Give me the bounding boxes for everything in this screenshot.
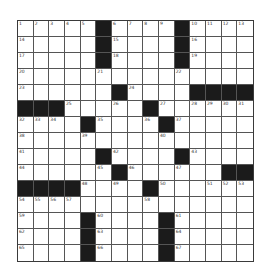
grid-cell[interactable] (222, 197, 238, 213)
grid-cell[interactable]: 23 (18, 85, 34, 101)
grid-cell[interactable] (206, 37, 222, 53)
grid-cell[interactable] (128, 197, 144, 213)
grid-cell[interactable] (237, 117, 253, 133)
grid-cell[interactable]: 11 (206, 21, 222, 37)
grid-cell[interactable]: 66 (96, 245, 112, 261)
grid-cell[interactable] (81, 85, 97, 101)
grid-cell[interactable]: 56 (49, 197, 65, 213)
grid-cell[interactable] (81, 101, 97, 117)
grid-cell[interactable] (190, 69, 206, 85)
grid-cell[interactable] (81, 37, 97, 53)
grid-cell[interactable] (112, 245, 128, 261)
grid-cell[interactable] (128, 133, 144, 149)
grid-cell[interactable] (49, 85, 65, 101)
grid-cell[interactable]: 31 (237, 101, 253, 117)
grid-cell[interactable] (34, 245, 50, 261)
grid-cell[interactable]: 27 (159, 101, 175, 117)
grid-cell[interactable] (112, 213, 128, 229)
grid-cell[interactable] (128, 149, 144, 165)
grid-cell[interactable] (159, 149, 175, 165)
grid-cell[interactable]: 14 (18, 37, 34, 53)
grid-cell[interactable] (49, 133, 65, 149)
grid-cell[interactable]: 67 (175, 245, 191, 261)
grid-cell[interactable] (49, 213, 65, 229)
grid-cell[interactable]: 2 (34, 21, 50, 37)
grid-cell[interactable]: 26 (112, 101, 128, 117)
grid-cell[interactable] (222, 213, 238, 229)
grid-cell[interactable]: 36 (143, 117, 159, 133)
grid-cell[interactable] (65, 133, 81, 149)
grid-cell[interactable] (34, 133, 50, 149)
grid-cell[interactable] (128, 117, 144, 133)
grid-cell[interactable]: 54 (18, 197, 34, 213)
grid-cell[interactable] (159, 165, 175, 181)
grid-cell[interactable] (34, 85, 50, 101)
grid-cell[interactable]: 9 (159, 21, 175, 37)
grid-cell[interactable]: 42 (112, 149, 128, 165)
grid-cell[interactable]: 4 (65, 21, 81, 37)
grid-cell[interactable] (143, 37, 159, 53)
grid-cell[interactable] (190, 117, 206, 133)
grid-cell[interactable] (49, 149, 65, 165)
grid-cell[interactable]: 10 (190, 21, 206, 37)
grid-cell[interactable] (143, 245, 159, 261)
grid-cell[interactable]: 64 (175, 229, 191, 245)
grid-cell[interactable] (190, 245, 206, 261)
grid-cell[interactable]: 59 (18, 213, 34, 229)
grid-cell[interactable] (206, 165, 222, 181)
grid-cell[interactable] (112, 197, 128, 213)
grid-cell[interactable] (65, 117, 81, 133)
grid-cell[interactable] (65, 213, 81, 229)
grid-cell[interactable] (34, 229, 50, 245)
grid-cell[interactable]: 39 (81, 133, 97, 149)
grid-cell[interactable]: 40 (159, 133, 175, 149)
grid-cell[interactable] (128, 69, 144, 85)
grid-cell[interactable] (96, 181, 112, 197)
grid-cell[interactable]: 61 (175, 213, 191, 229)
grid-cell[interactable]: 50 (159, 181, 175, 197)
grid-cell[interactable] (190, 181, 206, 197)
grid-cell[interactable]: 33 (34, 117, 50, 133)
grid-cell[interactable] (128, 213, 144, 229)
grid-cell[interactable] (237, 149, 253, 165)
grid-cell[interactable] (49, 53, 65, 69)
grid-cell[interactable] (206, 133, 222, 149)
grid-cell[interactable] (143, 133, 159, 149)
grid-cell[interactable] (222, 69, 238, 85)
grid-cell[interactable] (112, 69, 128, 85)
grid-cell[interactable]: 47 (175, 165, 191, 181)
grid-cell[interactable] (190, 197, 206, 213)
grid-cell[interactable] (175, 85, 191, 101)
grid-cell[interactable] (206, 149, 222, 165)
grid-cell[interactable]: 20 (18, 69, 34, 85)
grid-cell[interactable]: 24 (128, 85, 144, 101)
grid-cell[interactable]: 57 (65, 197, 81, 213)
grid-cell[interactable] (190, 133, 206, 149)
grid-cell[interactable]: 28 (190, 101, 206, 117)
grid-cell[interactable] (237, 245, 253, 261)
grid-cell[interactable] (206, 245, 222, 261)
grid-cell[interactable] (143, 69, 159, 85)
grid-cell[interactable]: 38 (18, 133, 34, 149)
grid-cell[interactable] (206, 117, 222, 133)
grid-cell[interactable]: 13 (237, 21, 253, 37)
grid-cell[interactable]: 7 (128, 21, 144, 37)
grid-cell[interactable]: 5 (81, 21, 97, 37)
grid-cell[interactable]: 63 (96, 229, 112, 245)
grid-cell[interactable] (65, 69, 81, 85)
grid-cell[interactable] (34, 165, 50, 181)
grid-cell[interactable] (190, 229, 206, 245)
grid-cell[interactable] (237, 197, 253, 213)
grid-cell[interactable] (222, 149, 238, 165)
grid-cell[interactable] (143, 149, 159, 165)
grid-cell[interactable] (206, 53, 222, 69)
grid-cell[interactable] (49, 229, 65, 245)
grid-cell[interactable] (34, 37, 50, 53)
grid-cell[interactable]: 21 (96, 69, 112, 85)
grid-cell[interactable] (96, 133, 112, 149)
grid-cell[interactable]: 51 (206, 181, 222, 197)
grid-cell[interactable] (222, 117, 238, 133)
grid-cell[interactable] (128, 37, 144, 53)
grid-cell[interactable] (237, 133, 253, 149)
grid-cell[interactable] (222, 245, 238, 261)
